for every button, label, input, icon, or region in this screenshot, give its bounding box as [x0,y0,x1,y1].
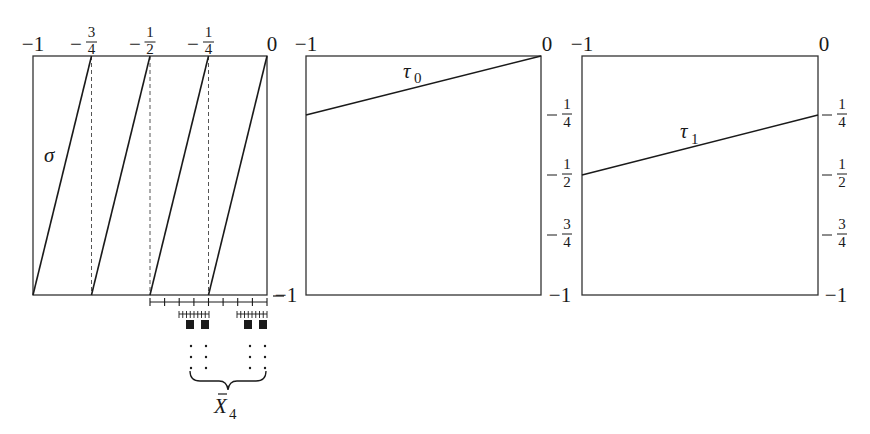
tau1-curve [582,115,818,175]
svg-text:4: 4 [563,114,571,130]
y-label-neg1-2: 1 2 [547,156,572,190]
svg-text:4: 4 [563,234,571,250]
figure-canvas: σ −1 − 3 4 − 1 2 − 1 4 0 [0,0,870,434]
svg-text:4: 4 [838,114,846,130]
panel1-bottom-neg1: −1 [275,283,297,307]
tau0-tick-0: 0 [542,32,553,56]
svg-text:2: 2 [563,174,571,190]
svg-text:2: 2 [146,41,154,57]
y-label-right-neg1-2: 1 2 [822,156,847,190]
svg-text:1: 1 [563,96,571,112]
svg-text:1: 1 [838,156,846,172]
y-label-neg3-4: 3 4 [547,216,572,250]
svg-text:4: 4 [88,41,96,57]
y-axis-left-between: −1 [275,32,297,56]
y-axis-right: 1 4 1 2 3 4 −1 [822,96,847,307]
svg-text:4: 4 [229,406,237,422]
panel-tau0-frame [306,56,541,295]
svg-text:−: − [70,32,82,56]
y-label-neg1: −1 [549,283,571,307]
svg-text:4: 4 [838,234,846,250]
svg-text:τ: τ [680,119,689,143]
underbrace [190,371,266,390]
tau0-label: τ 0 [403,59,422,86]
svg-text:1: 1 [691,131,699,147]
svg-text:1: 1 [205,24,213,40]
tau0-curve [306,56,541,115]
svg-text:−: − [129,32,141,56]
svg-text:0: 0 [414,70,422,86]
tau1-tick-neg1: −1 [571,32,593,56]
tau1-label: τ 1 [680,119,699,147]
cantor-blocks [186,320,267,329]
cantor-dots [190,345,266,369]
fine-ruler-left [179,311,209,318]
panel-tau1-frame [582,56,818,295]
svg-text:X: X [213,394,228,418]
svg-text:1: 1 [146,24,154,40]
fine-ruler-right [237,311,267,318]
svg-text:τ: τ [403,59,412,83]
y-label-neg1-4: 1 4 [547,96,572,130]
svg-text:1: 1 [838,96,846,112]
tick-label-neg1: −1 [22,32,44,56]
svg-text:2: 2 [838,174,846,190]
y-label-right-neg1-4: 1 4 [822,96,847,130]
tick-label-neg1-2: − 1 2 [129,24,155,57]
tau0-tick-neg1: −1 [295,32,317,56]
interval-ruler [150,298,267,306]
svg-text:−: − [187,32,199,56]
panel-sigma: σ −1 − 3 4 − 1 2 − 1 4 0 [22,24,277,422]
svg-text:3: 3 [563,216,571,232]
panel-tau1: τ 1 −1 0 [571,32,829,295]
sigma-top-axis: −1 − 3 4 − 1 2 − 1 4 0 [22,24,277,57]
tick-label-neg1-4: − 1 4 [187,24,214,57]
svg-text:3: 3 [838,216,846,232]
tau1-tick-0: 0 [819,32,830,56]
sigma-label: σ [44,143,56,167]
y-label-right-neg1: −1 [825,283,847,307]
dashed-guides [92,56,209,295]
y-label-right-neg3-4: 3 4 [822,216,847,250]
svg-text:3: 3 [88,24,96,40]
tick-label-neg3-4: − 3 4 [70,24,97,57]
svg-text:1: 1 [563,156,571,172]
panel-tau0: τ 0 −1 0 [295,32,552,295]
set-label-x4: X 4 [213,394,237,422]
y-axis-middle: 1 4 1 2 3 4 −1 [547,96,572,307]
svg-text:4: 4 [205,41,213,57]
